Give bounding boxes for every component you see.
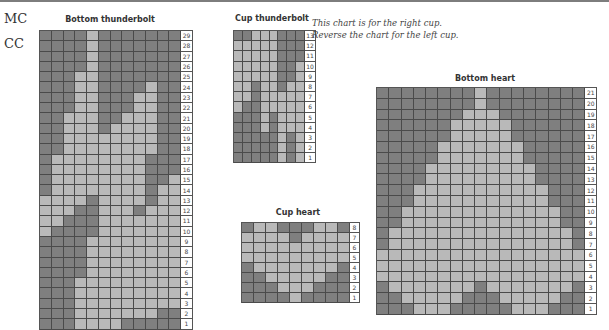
stitch-cell: [426, 261, 438, 272]
stitch-cell: [426, 120, 438, 131]
stitch-cell: [487, 153, 499, 164]
stitch-cell: [40, 227, 52, 237]
stitch-cell: [40, 82, 52, 92]
stitch-cell: [270, 41, 279, 51]
stitch-cell: [296, 92, 305, 102]
stitch-cell: [512, 142, 524, 153]
stitch-cell: [243, 102, 252, 112]
row-number: 8: [305, 82, 316, 92]
stitch-cell: [87, 278, 99, 288]
stitch-cell: [463, 142, 475, 153]
stitch-cell: [146, 175, 158, 185]
stitch-cell: [64, 155, 76, 165]
row-number: 9: [181, 237, 193, 247]
stitch-cell: [278, 133, 287, 143]
stitch-cell: [296, 143, 305, 153]
stitch-cell: [87, 258, 99, 268]
stitch-cell: [549, 239, 561, 250]
stitch-cell: [111, 237, 123, 247]
stitch-cell: [270, 133, 279, 143]
stitch-cell: [451, 131, 463, 142]
stitch-cell: [134, 185, 146, 195]
stitch-cell: [75, 247, 87, 257]
stitch-cell: [426, 282, 438, 293]
stitch-cell: [487, 164, 499, 175]
stitch-cell: [234, 123, 243, 133]
stitch-cell: [122, 299, 134, 309]
stitch-cell: [270, 153, 279, 163]
stitch-cell: [146, 103, 158, 113]
stitch-cell: [402, 120, 414, 131]
stitch-cell: [402, 261, 414, 272]
stitch-cell: [75, 31, 87, 41]
stitch-cell: [451, 110, 463, 121]
stitch-cell: [561, 88, 573, 99]
stitch-cell: [134, 206, 146, 216]
stitch-cell: [438, 218, 450, 229]
stitch-cell: [549, 99, 561, 110]
stitch-cell: [252, 51, 261, 61]
stitch-cell: [536, 304, 548, 315]
stitch-cell: [169, 299, 181, 309]
legend-cc: CC: [4, 36, 24, 51]
stitch-cell: [99, 113, 111, 123]
stitch-cell: [287, 143, 296, 153]
stitch-cell: [111, 278, 123, 288]
stitch-cell: [524, 207, 536, 218]
stitch-cell: [252, 113, 261, 123]
stitch-cell: [402, 218, 414, 229]
stitch-cell: [487, 218, 499, 229]
stitch-cell: [561, 110, 573, 121]
stitch-cell: [158, 196, 170, 206]
stitch-cell: [512, 218, 524, 229]
stitch-cell: [389, 99, 401, 110]
row-number: 19: [181, 134, 193, 144]
stitch-cell: [549, 282, 561, 293]
stitch-cell: [40, 52, 52, 62]
row-number: 1: [181, 319, 193, 329]
stitch-cell: [512, 88, 524, 99]
stitch-cell: [270, 51, 279, 61]
stitch-cell: [75, 62, 87, 72]
stitch-cell: [487, 304, 499, 315]
stitch-cell: [261, 82, 270, 92]
stitch-cell: [487, 110, 499, 121]
stitch-cell: [64, 41, 76, 51]
stitch-cell: [389, 239, 401, 250]
stitch-cell: [549, 250, 561, 261]
stitch-cell: [573, 174, 585, 185]
row-number: 14: [585, 164, 597, 175]
stitch-cell: [512, 164, 524, 175]
row-number: 8: [585, 228, 597, 239]
row-number: 19: [585, 110, 597, 121]
stitch-cell: [158, 103, 170, 113]
stitch-cell: [402, 239, 414, 250]
stitch-cell: [87, 227, 99, 237]
stitch-cell: [146, 278, 158, 288]
stitch-cell: [536, 174, 548, 185]
row-number: 20: [181, 124, 193, 134]
stitch-cell: [270, 113, 279, 123]
stitch-cell: [52, 196, 64, 206]
stitch-cell: [536, 88, 548, 99]
stitch-cell: [512, 207, 524, 218]
stitch-cell: [134, 309, 146, 319]
stitch-cell: [261, 92, 270, 102]
stitch-cell: [243, 62, 252, 72]
stitch-cell: [75, 278, 87, 288]
stitch-cell: [242, 243, 254, 253]
stitch-cell: [278, 273, 290, 283]
row-number: 22: [181, 103, 193, 113]
stitch-cell: [122, 155, 134, 165]
stitch-cell: [402, 304, 414, 315]
stitch-cell: [40, 206, 52, 216]
stitch-cell: [99, 124, 111, 134]
stitch-cell: [500, 293, 512, 304]
stitch-cell: [169, 93, 181, 103]
stitch-cell: [389, 272, 401, 283]
stitch-cell: [338, 283, 350, 293]
stitch-cell: [99, 309, 111, 319]
stitch-cell: [475, 120, 487, 131]
stitch-cell: [158, 165, 170, 175]
stitch-cell: [134, 216, 146, 226]
